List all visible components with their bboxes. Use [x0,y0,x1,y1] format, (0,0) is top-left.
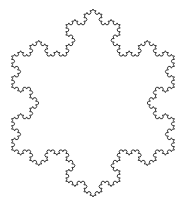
koch-snowflake-figure [0,0,187,209]
background [0,0,187,209]
